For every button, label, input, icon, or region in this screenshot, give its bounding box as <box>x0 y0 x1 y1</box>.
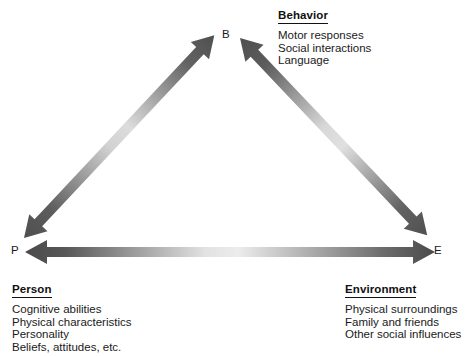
info-list-person: Cognitive abilities Physical characteris… <box>12 303 132 353</box>
diagram-canvas: B P E Behavior Motor responses Social in… <box>0 0 466 356</box>
node-label-person: P <box>11 245 19 257</box>
info-list-behavior: Motor responses Social interactions Lang… <box>278 29 371 67</box>
list-item: Social interactions <box>278 42 371 55</box>
info-heading-behavior: Behavior <box>278 9 328 24</box>
info-block-behavior: Behavior Motor responses Social interact… <box>278 5 371 67</box>
list-item: Physical characteristics <box>12 316 132 329</box>
info-heading-environment: Environment <box>345 283 416 298</box>
info-heading-person: Person <box>12 283 52 298</box>
node-label-behavior: B <box>222 29 230 41</box>
arrow-person-environment <box>25 240 435 264</box>
list-item: Cognitive abilities <box>12 303 132 316</box>
list-item: Family and friends <box>345 316 461 329</box>
list-item: Beliefs, attitudes, etc. <box>12 341 132 354</box>
info-block-person: Person Cognitive abilities Physical char… <box>12 279 132 354</box>
list-item: Physical surroundings <box>345 303 461 316</box>
arrow-person-behavior <box>15 27 224 247</box>
info-list-environment: Physical surroundings Family and friends… <box>345 303 461 341</box>
list-item: Personality <box>12 328 132 341</box>
list-item: Motor responses <box>278 29 371 42</box>
node-label-environment: E <box>434 245 442 257</box>
list-item: Other social influences <box>345 328 461 341</box>
list-item: Language <box>278 54 371 67</box>
info-block-environment: Environment Physical surroundings Family… <box>345 279 461 341</box>
